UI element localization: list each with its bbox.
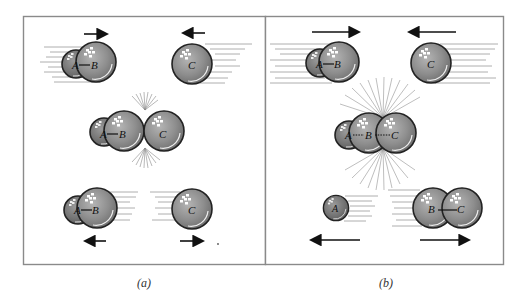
atom-c: C (411, 43, 451, 83)
svg-text:B: B (91, 59, 98, 71)
atom-c-after: C (172, 189, 212, 229)
svg-text:C: C (457, 203, 465, 215)
svg-text:C: C (427, 58, 435, 70)
svg-text:A: A (315, 58, 323, 70)
molecule-bc-after: B C (413, 188, 482, 228)
svg-text:C: C (188, 204, 196, 216)
atom-a-after: A (323, 195, 348, 220)
svg-text:C: C (391, 129, 399, 141)
collision-diagram: A B C A (0, 0, 522, 299)
svg-text:A: A (73, 204, 81, 216)
svg-text:B: B (365, 129, 372, 141)
caption-a: (a) (137, 276, 151, 290)
svg-text:A: A (344, 129, 352, 141)
svg-text:B: B (92, 204, 99, 216)
svg-text:B: B (428, 203, 435, 215)
svg-text:A: A (99, 128, 107, 140)
svg-text:B: B (119, 128, 126, 140)
svg-text:C: C (159, 128, 167, 140)
svg-text:A: A (331, 203, 339, 214)
svg-text:B: B (334, 58, 341, 70)
svg-text:A: A (71, 59, 79, 71)
svg-text:C: C (188, 59, 196, 71)
caption-b: (b) (379, 276, 393, 290)
atom-c: C (172, 44, 212, 84)
